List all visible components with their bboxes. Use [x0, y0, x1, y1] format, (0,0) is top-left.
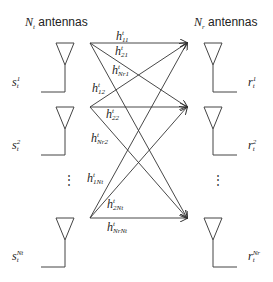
- rx-label-2: r2t: [248, 139, 256, 153]
- tx-header: Nt antennas: [25, 16, 88, 31]
- rx-antenna-2: [204, 107, 237, 155]
- channel-paths: [90, 43, 187, 218]
- rx-header: Nr antennas: [194, 16, 257, 31]
- channel-label-h1nt: ht1Nt: [87, 172, 103, 186]
- channel-label-hnr2: htNr2: [91, 132, 108, 146]
- rx-ellipsis: ⋮: [212, 178, 224, 182]
- tx-antenna-nt: [41, 218, 74, 267]
- channel-label-hnrnt: htNrNt: [107, 221, 127, 235]
- channel-label-h2nt: ht2Nt: [107, 198, 123, 212]
- tx-antenna-2: [41, 107, 74, 155]
- channel-label-h11: ht11: [116, 30, 128, 44]
- mimo-diagram-canvas: [0, 0, 273, 282]
- channel-label-h12: ht12: [92, 82, 105, 96]
- rx-label-1: r1t: [248, 76, 256, 90]
- channel-label-h21: ht21: [115, 45, 128, 59]
- tx-label-nt: sNtt: [12, 250, 23, 264]
- tx-ellipsis: ⋮: [63, 178, 75, 182]
- rx-label-nr: rNrt: [248, 250, 260, 264]
- tx-label-1: s1t: [12, 76, 20, 90]
- rx-antenna-nr: [204, 218, 237, 267]
- rx-antenna-1: [204, 43, 237, 92]
- channel-label-h22: ht22: [106, 108, 119, 122]
- tx-label-2: s2t: [12, 139, 20, 153]
- tx-antenna-1: [41, 43, 74, 92]
- channel-label-hnr1: htNr1: [112, 64, 129, 78]
